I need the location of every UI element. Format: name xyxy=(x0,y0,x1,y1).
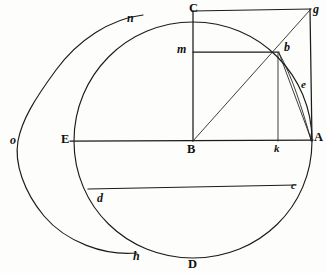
label-point-h: h xyxy=(133,250,140,262)
label-point-c: c xyxy=(291,180,296,191)
label-point-n: n xyxy=(127,12,134,24)
label-point-e: e xyxy=(301,79,306,90)
label-point-b: b xyxy=(284,41,290,53)
label-point-E: E xyxy=(61,133,70,146)
label-point-g: g xyxy=(313,3,319,15)
label-point-o: o xyxy=(10,134,16,146)
geometric-figure: C g n m b e o E B k A d c h D xyxy=(0,0,326,273)
line-bA xyxy=(279,53,311,139)
line-EA xyxy=(70,140,313,141)
label-point-D: D xyxy=(188,258,197,271)
label-point-A: A xyxy=(314,131,323,144)
label-point-k: k xyxy=(274,143,280,154)
outer-circle-o-upper xyxy=(17,15,143,253)
label-point-d: d xyxy=(97,192,103,204)
square-side-Cg xyxy=(192,9,311,11)
label-point-B: B xyxy=(187,143,196,156)
chord-dc xyxy=(88,185,296,189)
label-point-C: C xyxy=(189,2,198,15)
label-point-m: m xyxy=(177,43,186,55)
diagram-canvas xyxy=(0,0,326,273)
